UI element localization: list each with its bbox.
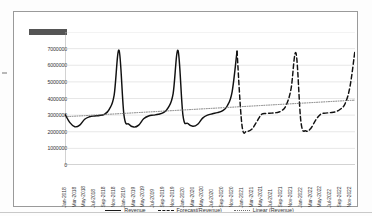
y-axis-tick: 2000000 (29, 129, 67, 135)
y-axis-tick: 1000000 (29, 145, 67, 151)
y-axis[interactable]: 8000000700000060000005000000400000030000… (27, 23, 67, 173)
x-axis[interactable]: Jan-2018Mar-2018May-2018Jul-2018Sep-2018… (65, 167, 357, 207)
chart-legend[interactable]: RevenueForecast(Revenue)Linear (Revenue) (27, 204, 372, 216)
page-bottom-rule (0, 212, 372, 213)
series-line (65, 50, 237, 127)
y-axis-tick: 5000000 (29, 79, 67, 85)
y-axis-tick: 8000000 (29, 29, 67, 35)
y-axis-tick: 0 (29, 162, 67, 168)
left-gutter-mark (2, 72, 7, 74)
y-axis-tick: 7000000 (29, 46, 67, 52)
chart-canvas (65, 32, 355, 165)
plot-area[interactable] (65, 32, 355, 165)
y-axis-tick: 4000000 (29, 96, 67, 102)
y-axis-tick: 3000000 (29, 112, 67, 118)
chart-object-frame[interactable]: 8000000700000060000005000000400000030000… (13, 11, 358, 207)
y-axis-tick: 6000000 (29, 62, 67, 68)
series-line (237, 50, 355, 133)
